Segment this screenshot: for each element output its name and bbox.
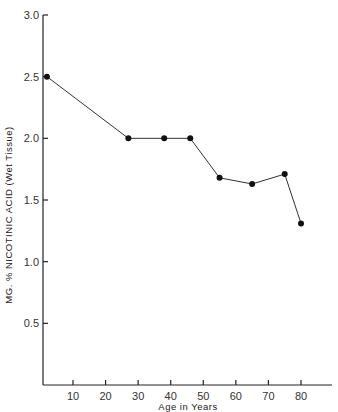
data-point bbox=[44, 74, 50, 80]
line-chart: 0.51.01.52.02.53.0 1020304050607080 Age … bbox=[0, 0, 338, 412]
y-tick-label: 1.5 bbox=[24, 194, 39, 206]
data-point bbox=[217, 175, 223, 181]
y-tick-label: 2.5 bbox=[24, 71, 39, 83]
data-point bbox=[282, 171, 288, 177]
y-axis-title: MG. % NICOTINIC ACID (Wet Tissue) bbox=[3, 126, 14, 303]
y-tick-label: 1.0 bbox=[24, 256, 39, 268]
x-tick-label: 20 bbox=[99, 390, 111, 402]
data-point bbox=[249, 181, 255, 187]
x-axis-title: Age in Years bbox=[158, 401, 217, 412]
axes bbox=[43, 15, 332, 385]
y-tick-label: 2.0 bbox=[24, 132, 39, 144]
y-ticks: 0.51.01.52.02.53.0 bbox=[24, 9, 48, 329]
data-point bbox=[125, 135, 131, 141]
y-tick-label: 0.5 bbox=[24, 317, 39, 329]
data-point bbox=[161, 135, 167, 141]
y-tick-label: 3.0 bbox=[24, 9, 39, 21]
series-line bbox=[47, 77, 301, 224]
data-point bbox=[187, 135, 193, 141]
data-series bbox=[44, 74, 304, 227]
x-ticks: 1020304050607080 bbox=[67, 380, 307, 402]
x-tick-label: 70 bbox=[262, 390, 274, 402]
x-tick-label: 30 bbox=[132, 390, 144, 402]
data-point bbox=[298, 220, 304, 226]
x-tick-label: 10 bbox=[67, 390, 79, 402]
x-tick-label: 60 bbox=[230, 390, 242, 402]
x-tick-label: 80 bbox=[295, 390, 307, 402]
